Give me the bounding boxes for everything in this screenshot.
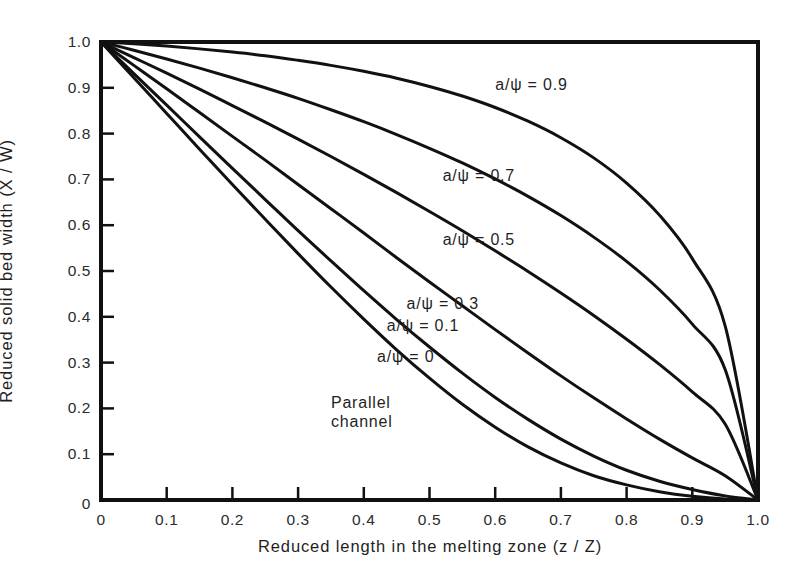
curves-group — [101, 42, 758, 500]
curve-label-0: a/ψ = 0.9 — [495, 76, 567, 94]
y-tick-label-0: 0 — [82, 495, 91, 513]
y-tick-label-2: 0.2 — [68, 399, 91, 417]
x-tick-label-2: 0.2 — [221, 511, 244, 529]
axis-ticks-group — [101, 88, 692, 500]
figure-container: 00.10.20.30.40.50.60.70.80.91.0 00.10.20… — [0, 0, 806, 582]
y-tick-label-3: 0.3 — [68, 354, 91, 372]
y-tick-label-9: 0.9 — [68, 79, 91, 97]
y-tick-label-5: 0.5 — [68, 262, 91, 280]
curve-series-3 — [101, 42, 758, 500]
curve-label-4: a/ψ = 0.1 — [387, 317, 459, 335]
curve-label-1: a/ψ = 0.7 — [443, 167, 515, 185]
chart-plot-area — [0, 0, 806, 582]
x-tick-label-0: 0 — [96, 511, 105, 529]
y-tick-label-7: 0.7 — [68, 170, 91, 188]
annotation-line-1: Parallel — [331, 394, 393, 413]
x-axis-title: Reduced length in the melting zone (z / … — [258, 537, 602, 556]
y-tick-label-4: 0.4 — [68, 308, 91, 326]
y-tick-label-10: 1.0 — [68, 33, 91, 51]
x-tick-label-4: 0.4 — [352, 511, 375, 529]
x-tick-label-1: 0.1 — [155, 511, 178, 529]
curve-label-2: a/ψ = 0.5 — [443, 231, 515, 249]
annotation-parallel-channel: Parallel channel — [331, 394, 393, 432]
x-tick-label-3: 0.3 — [286, 511, 309, 529]
y-tick-label-6: 0.6 — [68, 216, 91, 234]
x-tick-label-6: 0.6 — [484, 511, 507, 529]
y-tick-label-1: 0.1 — [68, 445, 91, 463]
x-tick-label-10: 1.0 — [746, 511, 769, 529]
x-tick-label-9: 0.9 — [681, 511, 704, 529]
x-tick-label-8: 0.8 — [615, 511, 638, 529]
x-tick-label-7: 0.7 — [549, 511, 572, 529]
x-tick-label-5: 0.5 — [418, 511, 441, 529]
curve-label-5: a/ψ = 0 — [377, 348, 434, 366]
y-axis-title: Reduced solid bed width (X / W) — [0, 139, 16, 403]
curve-label-3: a/ψ = 0.3 — [407, 295, 479, 313]
annotation-line-2: channel — [331, 413, 393, 432]
y-tick-label-8: 0.8 — [68, 125, 91, 143]
